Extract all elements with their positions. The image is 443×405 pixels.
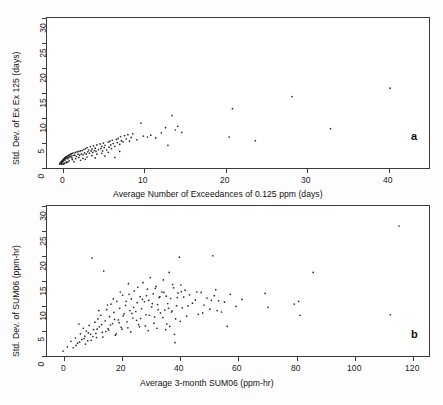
panel-b-x-tick-0: 0 [61, 363, 66, 373]
panel-b-x-tickmark-120 [413, 357, 414, 361]
panel-a-x-tickmark-10 [144, 169, 145, 173]
panel-b-x-tick-100: 100 [347, 363, 361, 373]
panel-b-x-tick-80: 80 [291, 363, 301, 373]
panel-b-x-tickmark-20 [122, 357, 123, 361]
panel-a-x-tickmark-30 [307, 169, 308, 173]
panel-a-y-tick-0: 0 [36, 169, 46, 183]
panel-a: Std. Dev. of Ex Ex 125 (days) 0 5 10 15 … [0, 0, 443, 200]
panel-b-x-tickmark-60 [238, 357, 239, 361]
panel-b-x-tick-60: 60 [232, 363, 242, 373]
panel-a-points-layer [47, 18, 429, 168]
panel-b-x-axis-title: Average 3-month SUM06 (ppm-hr) [140, 378, 274, 388]
panel-b-y-axis-title: Std. Dev. of SUM06 (ppm-hr) [11, 245, 21, 357]
panel-b-x-tick-20: 20 [116, 363, 126, 373]
panel-b-letter: b [411, 328, 418, 340]
panel-a-x-tick-10: 10 [138, 175, 148, 185]
panel-b-x-tickmark-80 [297, 357, 298, 361]
panel-b-y-tick-5: 5 [36, 332, 46, 346]
panel-a-plot-area [46, 17, 430, 169]
panel-a-x-tick-30: 30 [301, 175, 311, 185]
panel-b: Std. Dev. of SUM06 (ppm-hr) 0 5 10 15 20… [0, 200, 443, 405]
panel-b-x-tick-40: 40 [174, 363, 184, 373]
panel-a-x-tick-40: 40 [383, 175, 393, 185]
panel-a-y-tick-5: 5 [36, 144, 46, 158]
panel-b-x-tickmark-100 [355, 357, 356, 361]
panel-a-x-tickmark-40 [389, 169, 390, 173]
panel-a-x-tick-0: 0 [60, 175, 65, 185]
figure-container: Std. Dev. of Ex Ex 125 (days) 0 5 10 15 … [0, 0, 443, 405]
panel-a-x-tick-20: 20 [220, 175, 230, 185]
panel-b-x-tickmark-0 [64, 357, 65, 361]
panel-b-points-layer [47, 206, 429, 356]
panel-a-x-tickmark-0 [63, 169, 64, 173]
panel-b-plot-area [46, 205, 430, 357]
panel-a-x-axis-title: Average Number of Exceedances of 0.125 p… [113, 189, 323, 199]
panel-a-x-tickmark-20 [226, 169, 227, 173]
panel-a-letter: a [411, 130, 417, 142]
panel-b-x-tick-120: 120 [405, 363, 419, 373]
panel-a-y-axis-title: Std. Dev. of Ex Ex 125 (days) [11, 51, 21, 165]
panel-b-x-tickmark-40 [180, 357, 181, 361]
panel-b-y-tick-0: 0 [36, 357, 46, 371]
